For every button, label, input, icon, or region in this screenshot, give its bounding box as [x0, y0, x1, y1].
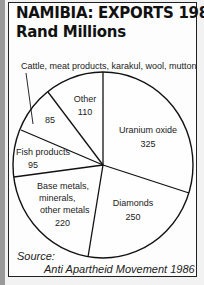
value-other: 110 — [70, 106, 100, 118]
source-text: Anti Apartheid Movement 1986 — [44, 263, 195, 275]
value-base: 220 — [55, 217, 70, 229]
label-base-line2: minerals, — [39, 192, 76, 204]
label-base-line1: Base metals, — [37, 180, 89, 192]
label-other: Other — [70, 93, 100, 105]
label-fish: Fish products — [16, 146, 70, 158]
value-diamonds: 250 — [108, 211, 158, 223]
label-diamonds: Diamonds — [108, 197, 158, 209]
value-uranium: 325 — [113, 138, 183, 150]
label-cattle: Cattle, meat products, karakul, wool, mu… — [21, 60, 197, 72]
source-label: Source: — [17, 250, 55, 262]
value-cattle: 85 — [45, 114, 55, 126]
value-fish: 95 — [28, 159, 38, 171]
label-base-line3: other metals — [40, 204, 90, 216]
label-uranium: Uranium oxide — [113, 124, 183, 136]
